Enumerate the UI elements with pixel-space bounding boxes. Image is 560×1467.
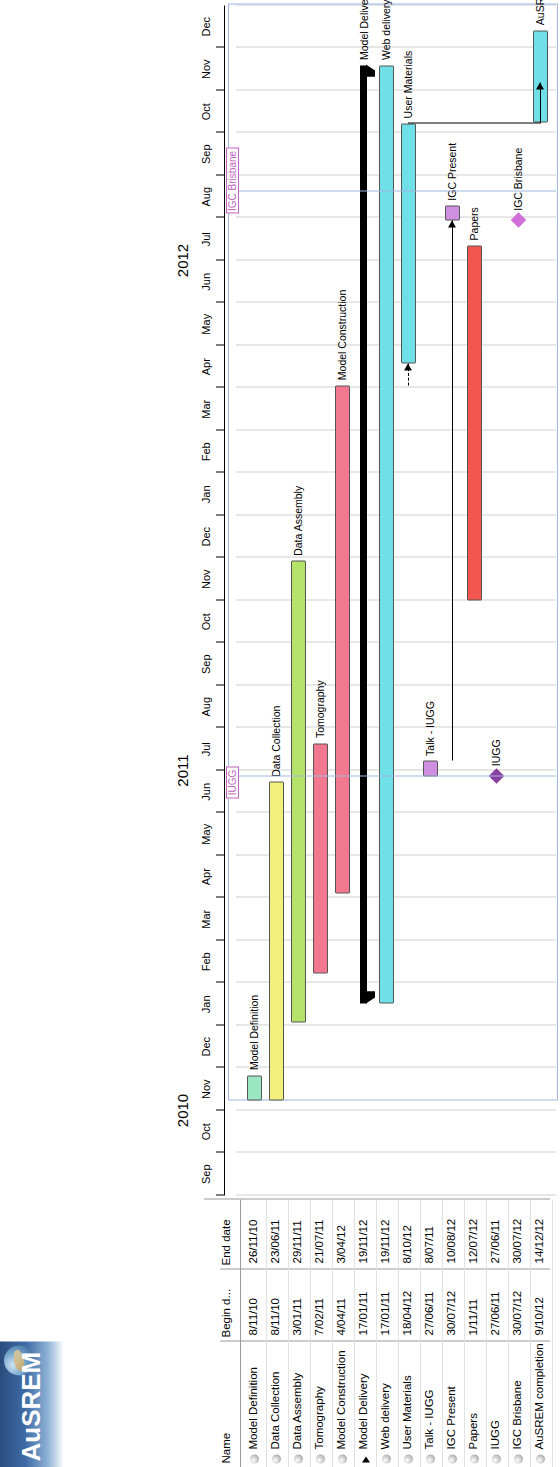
gantt-bar[interactable]	[269, 781, 284, 1100]
grid-line	[236, 1109, 556, 1110]
month-tick	[216, 599, 224, 600]
month-label: Jan	[200, 983, 212, 1026]
row-bullet-icon	[382, 1454, 391, 1463]
month-label: Aug	[200, 685, 212, 728]
time-axis-baseline	[224, 5, 225, 1195]
gantt-chart: AuSREM NameBegin d...End dateModel Defin…	[0, 0, 560, 1467]
gantt-bar[interactable]	[379, 65, 394, 1004]
table-row-rule	[464, 1199, 465, 1467]
table-col-sep-3	[204, 1198, 550, 1199]
row-bullet-icon	[338, 1454, 347, 1463]
month-label: Feb	[200, 430, 212, 473]
year-label: 2012	[174, 5, 191, 515]
table-row-rule	[530, 1199, 531, 1467]
dependency-link	[408, 122, 540, 123]
table-row-rule	[288, 1199, 289, 1467]
month-tick	[216, 982, 224, 983]
month-label: Oct	[200, 90, 212, 133]
year-label: 2010	[174, 1025, 191, 1195]
marker-line	[226, 775, 556, 776]
gantt-bar[interactable]	[401, 123, 416, 364]
month-tick	[216, 769, 224, 770]
month-label: Jul	[200, 218, 212, 261]
marker-label: IUGG	[226, 766, 239, 798]
gantt-bar-label: Data Assembly	[292, 485, 304, 555]
month-tick	[216, 557, 224, 558]
month-tick	[216, 854, 224, 855]
month-label: Oct	[200, 1110, 212, 1153]
row-bullet-icon	[536, 1454, 545, 1463]
gantt-bar-label: AuSREM completion	[534, 0, 546, 25]
gantt-summary-bar[interactable]	[360, 65, 367, 1004]
gantt-bar[interactable]	[291, 560, 306, 1022]
row-bullet-icon	[404, 1454, 413, 1463]
gantt-bar[interactable]	[335, 385, 350, 894]
gantt-bar[interactable]	[423, 760, 438, 775]
table-row-rule	[376, 1199, 377, 1467]
gantt-bar-label: Web delivery	[380, 0, 392, 60]
grid-line	[236, 1152, 556, 1153]
row-bullet-icon	[294, 1454, 303, 1463]
grid-line	[236, 1194, 556, 1195]
month-tick	[216, 174, 224, 175]
row-bullet-icon	[448, 1454, 457, 1463]
month-tick	[216, 217, 224, 218]
month-label: Mar	[200, 898, 212, 941]
table-row-rule	[354, 1199, 355, 1467]
app-title: AuSREM	[16, 1351, 47, 1461]
month-tick	[216, 514, 224, 515]
table-header-rule	[240, 1199, 241, 1467]
month-label: Jun	[200, 260, 212, 303]
month-label: Jan	[200, 473, 212, 516]
gantt-bar[interactable]	[467, 245, 482, 600]
dependency-arrowhead	[404, 363, 412, 370]
row-bullet-icon	[316, 1454, 325, 1463]
gantt-milestone-label: IUGG	[490, 739, 502, 766]
month-label: Nov	[200, 558, 212, 601]
month-label: Sep	[200, 133, 212, 176]
table-row-rule	[442, 1199, 443, 1467]
month-label: Sep	[200, 1153, 212, 1196]
table-header-end: End date	[220, 1219, 242, 1265]
row-bullet-icon	[492, 1454, 501, 1463]
month-label: Dec	[200, 515, 212, 558]
month-tick	[216, 727, 224, 728]
month-tick	[216, 1152, 224, 1153]
month-tick	[216, 1194, 224, 1195]
table-header-begin: Begin d...	[220, 1288, 242, 1337]
month-label: Jul	[200, 728, 212, 771]
table-row-rule	[266, 1199, 267, 1467]
month-tick	[216, 344, 224, 345]
gantt-bar-label: Model Definition	[248, 994, 260, 1069]
table-row-rule	[332, 1199, 333, 1467]
month-label: Feb	[200, 940, 212, 983]
gantt-bar[interactable]	[445, 205, 460, 220]
table-row-rule	[420, 1199, 421, 1467]
month-tick	[216, 642, 224, 643]
gantt-bar[interactable]	[247, 1075, 262, 1101]
dependency-arrowhead	[448, 220, 456, 227]
month-label: May	[200, 813, 212, 856]
row-bullet-icon	[470, 1454, 479, 1463]
table-row-rule	[310, 1199, 311, 1467]
month-tick	[216, 897, 224, 898]
gantt-bar-label: Data Collection	[270, 705, 282, 776]
row-bullet-icon	[514, 1454, 523, 1463]
gantt-milestone-label: IGC Brisbane	[512, 147, 524, 210]
month-label: May	[200, 303, 212, 346]
gantt-bar[interactable]	[313, 743, 328, 974]
month-tick	[216, 1109, 224, 1110]
row-bullet-icon	[272, 1454, 281, 1463]
month-tick	[216, 472, 224, 473]
month-tick	[216, 429, 224, 430]
gantt-bar-label: User Materials	[402, 50, 414, 118]
gantt-summary-cap-right	[366, 65, 375, 77]
month-label: Aug	[200, 175, 212, 218]
gantt-bar-label: Model Construction	[336, 289, 348, 379]
gantt-summary-label: Model Delivery	[358, 0, 370, 60]
dependency-arrowhead	[536, 82, 544, 89]
table-row-rule	[508, 1199, 509, 1467]
month-label: Nov	[200, 48, 212, 91]
gantt-bar-label: Papers	[468, 207, 480, 240]
month-label: Jun	[200, 770, 212, 813]
